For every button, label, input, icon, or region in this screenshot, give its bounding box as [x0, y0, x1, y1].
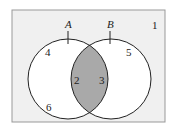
region-b-only: 5 [126, 46, 132, 58]
region-a-bottom: 6 [46, 101, 52, 113]
region-intersection-right: 3 [99, 74, 105, 86]
venn-diagram: A B 1 4 6 2 3 5 [0, 0, 175, 134]
universe-count: 1 [152, 19, 158, 31]
region-a-top: 4 [45, 46, 51, 58]
region-intersection-left: 2 [74, 74, 80, 86]
set-b-label: B [107, 18, 114, 30]
set-a-label: A [64, 18, 72, 30]
